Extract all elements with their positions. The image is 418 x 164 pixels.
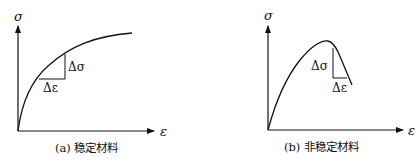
- epsilon-label-b: ε: [408, 123, 415, 138]
- slope-triangle-b: [333, 48, 347, 78]
- caption-a: (a) 稳定材料: [55, 141, 119, 155]
- stress-strain-curve-a: [18, 33, 132, 131]
- panel-b-unstable-material: σ ε Δσ Δε (b) 非稳定材料: [264, 8, 415, 154]
- delta-sigma-label-b: Δσ: [311, 59, 328, 73]
- panel-a-stable-material: σ ε Δσ Δε (a) 稳定材料: [14, 9, 167, 155]
- stress-strain-diagram: σ ε Δσ Δε (a) 稳定材料 σ ε Δσ Δε (b) 非稳定材料: [0, 0, 418, 164]
- caption-b: (b) 非稳定材料: [284, 140, 360, 154]
- sigma-label-b: σ: [264, 8, 274, 23]
- sigma-label-a: σ: [14, 9, 24, 24]
- delta-epsilon-label-a: Δε: [43, 81, 58, 95]
- epsilon-label-a: ε: [160, 124, 167, 139]
- slope-triangle-a: [39, 54, 65, 79]
- delta-sigma-label-a: Δσ: [68, 60, 85, 74]
- delta-epsilon-label-b: Δε: [332, 81, 347, 95]
